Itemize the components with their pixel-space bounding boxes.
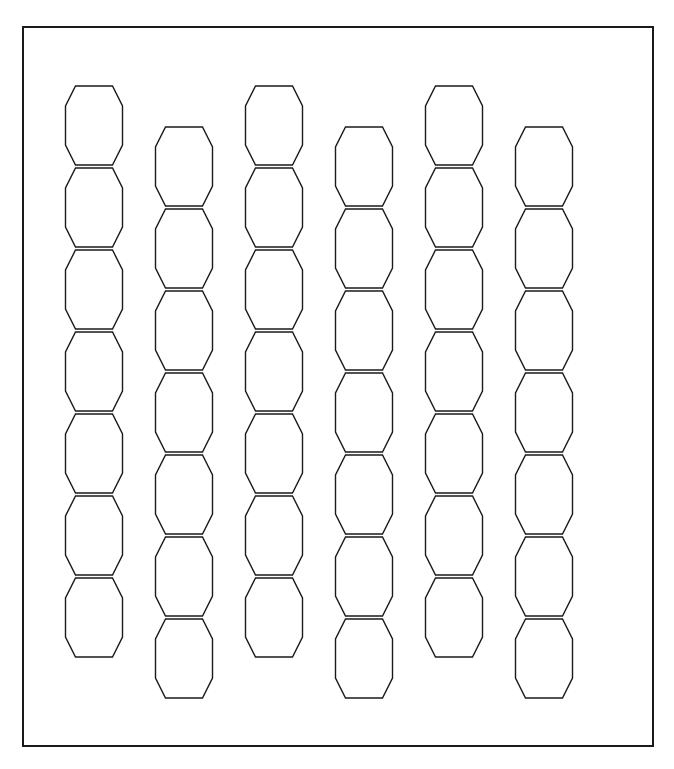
hexagon-cell[interactable] xyxy=(156,209,213,288)
hexagon-cell[interactable] xyxy=(246,250,303,329)
hexagon-cell[interactable] xyxy=(516,209,573,288)
hexagon-cell[interactable] xyxy=(246,414,303,493)
hexagon-cell[interactable] xyxy=(66,414,123,493)
hexagon-cell[interactable] xyxy=(336,373,393,452)
hexagon-cell[interactable] xyxy=(426,496,483,575)
hexagon-cell[interactable] xyxy=(246,332,303,411)
hexagon-cell[interactable] xyxy=(426,578,483,657)
hexagon-cell[interactable] xyxy=(336,209,393,288)
hexagon-cell[interactable] xyxy=(156,373,213,452)
hexagon-cell[interactable] xyxy=(516,537,573,616)
hexagon-cell[interactable] xyxy=(426,414,483,493)
page-canvas xyxy=(0,0,674,769)
hexagon-cell[interactable] xyxy=(336,127,393,206)
hexagon-cell[interactable] xyxy=(516,127,573,206)
hexagon-column xyxy=(156,127,213,698)
hexagon-cell[interactable] xyxy=(66,578,123,657)
hexagon-cell[interactable] xyxy=(246,86,303,165)
hexagon-cell[interactable] xyxy=(516,619,573,698)
hexagon-cell[interactable] xyxy=(516,291,573,370)
hexagon-column xyxy=(516,127,573,698)
hexagon-column xyxy=(336,127,393,698)
hexagon-cell[interactable] xyxy=(336,619,393,698)
hexagon-cell[interactable] xyxy=(246,168,303,247)
hexagon-cell[interactable] xyxy=(426,250,483,329)
hexagon-column xyxy=(66,86,123,657)
hexagon-cell[interactable] xyxy=(156,619,213,698)
hexagon-cell[interactable] xyxy=(156,455,213,534)
hexagon-cell[interactable] xyxy=(426,332,483,411)
hexagon-cell[interactable] xyxy=(156,127,213,206)
hexagon-cell[interactable] xyxy=(66,332,123,411)
hexagon-cell[interactable] xyxy=(66,496,123,575)
hexagon-cell[interactable] xyxy=(246,578,303,657)
hexagon-tessellation-figure xyxy=(0,0,674,769)
hexagon-cell[interactable] xyxy=(156,291,213,370)
hexagon-column xyxy=(246,86,303,657)
hexagon-column xyxy=(426,86,483,657)
hexagon-cell[interactable] xyxy=(66,250,123,329)
hexagon-cell[interactable] xyxy=(336,537,393,616)
hexagon-grid-layer xyxy=(66,86,573,698)
hexagon-cell[interactable] xyxy=(516,373,573,452)
hexagon-cell[interactable] xyxy=(66,168,123,247)
hexagon-cell[interactable] xyxy=(426,168,483,247)
hexagon-cell[interactable] xyxy=(336,291,393,370)
hexagon-cell[interactable] xyxy=(156,537,213,616)
hexagon-cell[interactable] xyxy=(246,496,303,575)
hexagon-cell[interactable] xyxy=(516,455,573,534)
hexagon-cell[interactable] xyxy=(426,86,483,165)
hexagon-cell[interactable] xyxy=(66,86,123,165)
hexagon-cell[interactable] xyxy=(336,455,393,534)
